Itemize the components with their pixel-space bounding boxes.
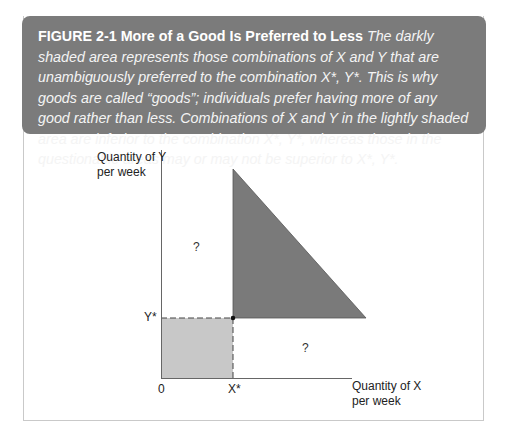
x-axis-label-line2: per week	[352, 394, 421, 409]
questionable-area-lower-label: ?	[302, 341, 309, 355]
reference-point	[231, 316, 236, 321]
preference-chart	[0, 0, 508, 437]
inferior-region	[161, 318, 233, 378]
y-axis-label-line2: per week	[97, 165, 166, 180]
origin-label: 0	[158, 382, 165, 397]
y-axis-label-line1: Quantity of Y	[97, 150, 166, 165]
x-axis-label-line1: Quantity of X	[352, 379, 421, 394]
preferred-region	[233, 169, 366, 318]
y-axis-label: Quantity of Y per week	[97, 150, 166, 180]
y-star-label: Y*	[144, 310, 157, 325]
x-axis-label: Quantity of X per week	[352, 379, 421, 409]
questionable-area-upper-label: ?	[193, 240, 200, 254]
x-star-label: X*	[228, 382, 241, 397]
